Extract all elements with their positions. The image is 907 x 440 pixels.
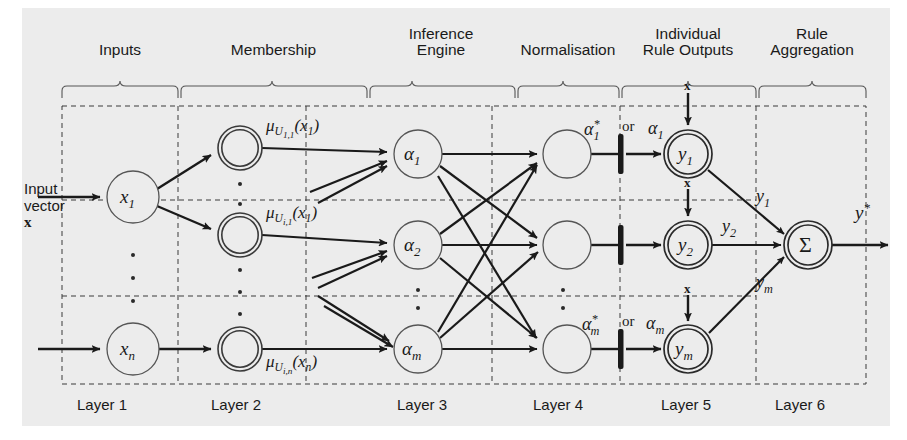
- layer-label-3: Layer 3: [382, 396, 462, 413]
- node-mf-1-inner: [222, 130, 258, 166]
- edge-label-y-out-m: ym: [756, 272, 773, 297]
- layer-label-2: Layer 2: [196, 396, 276, 413]
- section-label-membership: Membership: [180, 42, 367, 58]
- edge-label-alpha-star-m: α*m: [582, 312, 599, 339]
- node-mf-3-inner: [222, 331, 258, 367]
- section-label-individual-rule-outputs-line1: Individual: [612, 26, 764, 42]
- edge-label-mu-U-i-1: μUi,1(x1): [266, 203, 317, 228]
- section-label-rule-aggregation-line2: Aggregation: [752, 42, 872, 58]
- node-label-y2: y2: [678, 234, 693, 260]
- node-label-alpha1: α1: [404, 143, 420, 169]
- node-norm-2: [543, 221, 591, 269]
- edge-label-alpha-out-1: α1: [648, 118, 664, 143]
- ellipsis-dots: [131, 182, 565, 316]
- edge-label-y-out-2: y2: [722, 216, 736, 241]
- input-vector-line1: Input: [24, 180, 65, 197]
- figure-canvas: Inputs Membership Inference Engine Norma…: [0, 0, 907, 440]
- layer-label-4: Layer 4: [518, 396, 598, 413]
- layer-label-1: Layer 1: [62, 396, 142, 413]
- section-label-individual-rule-outputs-line2: Rule Outputs: [612, 42, 764, 58]
- edge-label-alpha-out-m: αm: [646, 313, 664, 338]
- input-vector-label: Input vector x: [24, 180, 65, 231]
- node-label-ym: ym: [675, 338, 693, 364]
- edges-layer5-layer6: [708, 170, 784, 333]
- edges-layer2-layer3: [262, 148, 393, 349]
- edge-label-mu-U-i-n: μUi,n(xn): [266, 352, 317, 377]
- node-label-alpha2: α2: [404, 234, 420, 260]
- layer-label-5: Layer 5: [646, 396, 726, 413]
- edge-label-y-star: y*: [855, 200, 870, 224]
- layer-label-6: Layer 6: [760, 396, 840, 413]
- or-label-bottom: or: [622, 313, 635, 330]
- crisp-input-label-m: x: [684, 281, 691, 297]
- crisp-input-label-1: x: [684, 78, 691, 94]
- edge-label-alpha-star-1: α*1: [584, 117, 600, 144]
- or-label-top: or: [622, 118, 635, 135]
- section-label-rule-aggregation-line1: Rule: [752, 26, 872, 42]
- network-diagram-svg: [0, 0, 907, 440]
- section-label-inference-line1: Inference: [356, 26, 526, 42]
- node-label-sigma: Σ: [799, 232, 812, 258]
- section-label-inputs: Inputs: [62, 42, 178, 58]
- edges-layer1-layer2: [157, 155, 211, 349]
- crisp-input-label-2: x: [684, 175, 691, 191]
- node-mf-2-inner: [222, 217, 258, 253]
- nodes-layer-2: [218, 126, 262, 371]
- section-braces: [62, 81, 866, 98]
- edge-label-mu-U-1-1: μU1,1(x1): [266, 116, 319, 141]
- node-label-alpham: αm: [402, 338, 421, 364]
- edge-label-y-out-1: y1: [756, 186, 770, 211]
- node-label-xn: xn: [120, 338, 135, 364]
- input-vector-line2: vector: [24, 197, 65, 214]
- defuzzification-bars: [618, 134, 624, 369]
- edges-layer3-layer4: [438, 154, 538, 349]
- node-label-x1: x1: [120, 186, 135, 212]
- input-vector-symbol: x: [24, 214, 65, 231]
- node-label-y1: y1: [678, 143, 693, 169]
